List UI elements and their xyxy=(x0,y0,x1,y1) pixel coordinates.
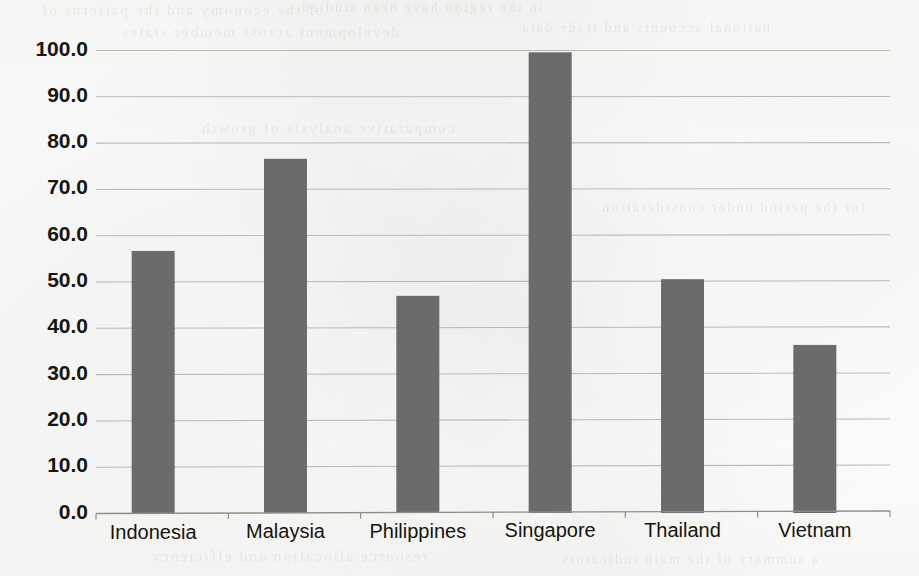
y-axis-tick-label: 70.0 xyxy=(47,175,88,198)
y-axis-tick-label: 10.0 xyxy=(47,453,88,476)
bar xyxy=(264,159,307,513)
bars xyxy=(132,52,837,513)
bar xyxy=(793,345,836,513)
bar xyxy=(396,296,439,513)
y-axis-tick-labels: 0.010.020.030.040.050.060.070.080.090.01… xyxy=(35,37,88,523)
y-axis-tick-label: 90.0 xyxy=(47,83,88,106)
y-axis-tick-label: 60.0 xyxy=(47,222,88,245)
chart-screenshot: of the economy and the patterns of in th… xyxy=(0,0,919,576)
y-axis-tick-label: 100.0 xyxy=(35,37,88,60)
y-axis-tick-label: 40.0 xyxy=(47,314,88,337)
y-axis-tick-label: 30.0 xyxy=(47,361,88,384)
x-axis-tick-label: Vietnam xyxy=(778,519,851,541)
bar xyxy=(661,279,704,513)
gridline xyxy=(96,189,890,190)
gridline xyxy=(96,465,890,467)
x-axis-tick-label: Indonesia xyxy=(110,521,198,543)
x-axis-tick-label: Malaysia xyxy=(246,520,326,542)
bar xyxy=(529,52,572,513)
y-axis-tick-label: 50.0 xyxy=(47,268,88,291)
gridline xyxy=(96,235,890,236)
y-axis-tick-label: 80.0 xyxy=(47,129,88,152)
x-axis-tick-label: Thailand xyxy=(644,519,721,541)
x-axis-tick-label: Philippines xyxy=(369,520,466,542)
gridline xyxy=(96,281,890,282)
gridline xyxy=(96,373,890,375)
bar xyxy=(132,251,175,513)
x-axis-tick-marks xyxy=(96,511,890,520)
x-axis-tick-label: Singapore xyxy=(505,519,596,541)
bar-chart: 0.010.020.030.040.050.060.070.080.090.01… xyxy=(0,0,919,576)
y-axis-tick-label: 0.0 xyxy=(59,500,88,523)
gridline xyxy=(96,327,890,328)
gridline xyxy=(96,419,890,421)
x-axis-tick-labels: IndonesiaMalaysiaPhilippinesSingaporeTha… xyxy=(110,519,852,543)
gridlines xyxy=(96,51,890,468)
y-axis-tick-label: 20.0 xyxy=(47,407,88,430)
